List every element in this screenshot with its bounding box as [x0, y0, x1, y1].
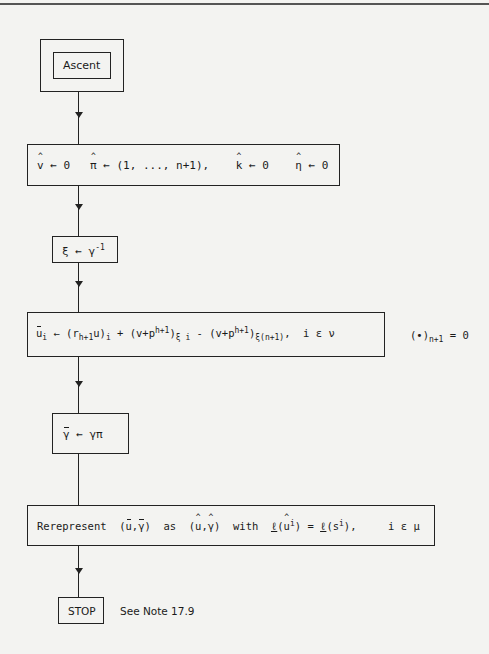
gbar-rest: ← γπ — [70, 428, 103, 441]
u-hat: u — [195, 521, 201, 532]
sub-xin: ξ(n+1) — [255, 333, 284, 342]
r-t6: (s — [326, 520, 339, 532]
gamma-bar-2: γ — [138, 521, 144, 532]
r-t2: ) as ( — [145, 520, 196, 532]
rerep-node: Rerepresent (u,γ) as (u,γ) with ℓ(ui) = … — [27, 505, 435, 546]
init-text: v ← 0 π ← (1, ..., n+1), k ← 0 η ← 0 — [37, 160, 328, 171]
arrow-6-icon — [75, 568, 83, 574]
xi-node: ξ ← γ-1 — [52, 236, 118, 263]
arrow-2-icon — [75, 204, 83, 210]
u-bar: u — [36, 328, 42, 339]
xi-text: ξ ← γ-1 — [62, 246, 105, 257]
connector-1 — [78, 92, 79, 144]
rerep-text: Rerepresent (u,γ) as (u,γ) with ℓ(ui) = … — [37, 521, 420, 532]
init-node: v ← 0 π ← (1, ..., n+1), k ← 0 η ← 0 — [27, 144, 340, 186]
pi-hat: π — [90, 160, 97, 171]
ascent-node: Ascent — [53, 52, 111, 79]
sup-h1: h+1 — [155, 326, 169, 335]
connector-5 — [78, 454, 79, 505]
r-t1: Rerepresent ( — [37, 520, 126, 532]
eta-hat: η — [295, 160, 302, 171]
gbar-text: γ ← γπ — [63, 429, 103, 440]
pi-assign: ← (1, ..., n+1), — [97, 159, 236, 172]
arrow-1-icon — [75, 112, 83, 118]
page-top-rule — [0, 3, 489, 5]
sub-xi: ξ i — [176, 333, 190, 342]
sup-h1b: h+1 — [234, 326, 248, 335]
t2: u) — [93, 327, 106, 339]
xi-lhs: ξ ← γ — [62, 245, 95, 258]
ascent-label: Ascent — [63, 60, 100, 71]
see-note-text: See Note 17.9 — [120, 606, 195, 617]
gamma-bar: γ — [63, 429, 70, 440]
xi-sup: -1 — [95, 243, 105, 252]
arrow-4-icon — [75, 381, 83, 387]
r-t3: ) with — [214, 520, 271, 532]
t1: ← (r — [47, 327, 79, 339]
stop-label: STOP — [68, 606, 96, 617]
k-assign: ← 0 — [242, 159, 295, 172]
v-assign: ← 0 — [44, 159, 90, 172]
arrow-3-icon — [75, 281, 83, 287]
u-bar-2: u — [126, 521, 132, 532]
eta-assign: ← 0 — [302, 159, 329, 172]
sub-h1: h+1 — [79, 333, 93, 342]
k-hat: k — [236, 160, 243, 171]
stop-node: STOP — [58, 597, 104, 624]
sub-n1: n+1 — [429, 335, 443, 344]
r-t7: ), i ε μ — [344, 520, 420, 532]
t7: , i ε ν — [284, 327, 335, 339]
side-note-boundary: (•)n+1 = 0 — [410, 330, 469, 341]
r-t5: ) = — [295, 520, 320, 532]
connector-2 — [78, 186, 79, 236]
eq-zero: = 0 — [443, 329, 468, 341]
t3: + (v+p — [111, 327, 155, 339]
gamma-hat: γ — [208, 521, 214, 532]
v-hat: v — [37, 160, 44, 171]
bullet-paren: (•) — [410, 329, 429, 341]
t5: - (v+p — [190, 327, 234, 339]
ubar-node: ui ← (rh+1u)i + (v+ph+1)ξ i - (v+ph+1)ξ(… — [27, 312, 385, 357]
u-hat-2: u — [284, 521, 290, 532]
gbar-node: γ ← γπ — [52, 413, 129, 454]
connector-3 — [78, 263, 79, 312]
ubar-text: ui ← (rh+1u)i + (v+ph+1)ξ i - (v+ph+1)ξ(… — [36, 328, 335, 339]
